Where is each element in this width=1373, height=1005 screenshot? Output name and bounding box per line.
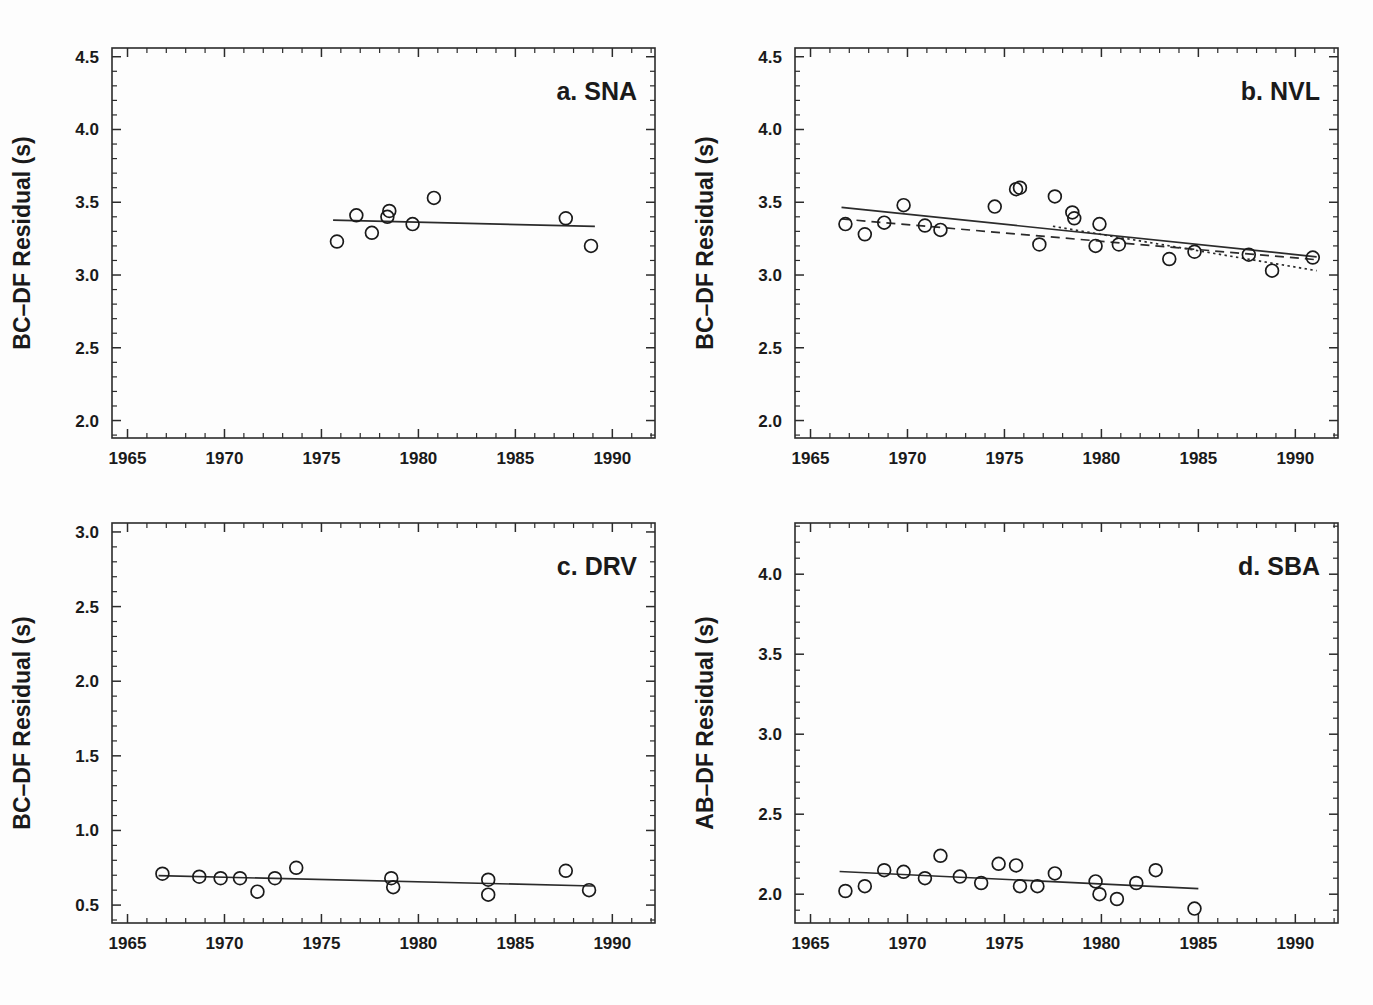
data-point-marker	[1111, 893, 1124, 906]
panel-label-sna: a. SNA	[556, 77, 637, 105]
y-tick-label: 4.5	[758, 48, 782, 67]
x-tick-label: 1975	[303, 934, 341, 953]
x-tick-label: 1970	[889, 449, 927, 468]
x-tick-label: 1980	[399, 449, 437, 468]
y-tick-label: 0.5	[75, 896, 99, 915]
data-point-marker	[1306, 251, 1319, 264]
axes-frame	[795, 48, 1338, 438]
x-axis-tick-labels: 196519701975198019851990	[109, 449, 632, 468]
regression-lines	[842, 207, 1317, 270]
data-point-marker	[385, 872, 398, 885]
data-point-marker	[559, 864, 572, 877]
y-tick-label: 2.0	[75, 412, 99, 431]
plot-drv: 1965197019751980198519900.51.01.52.02.53…	[0, 495, 690, 985]
y-axis-ticks	[795, 57, 1338, 435]
y-tick-label: 2.0	[75, 672, 99, 691]
y-tick-label: 4.0	[758, 565, 782, 584]
y-axis-ticks	[795, 526, 1338, 910]
x-tick-label: 1965	[792, 449, 830, 468]
data-point-marker	[934, 224, 947, 237]
data-point-marker	[290, 861, 303, 874]
y-axis-tick-labels: 2.02.53.03.54.04.5	[758, 48, 782, 431]
data-point-marker	[1112, 238, 1125, 251]
data-point-marker	[365, 226, 378, 239]
data-point-marker	[1048, 867, 1061, 880]
panel-drv: 1965197019751980198519900.51.01.52.02.53…	[0, 495, 690, 985]
x-tick-label: 1965	[109, 934, 147, 953]
x-axis-tick-labels: 196519701975198019851990	[792, 934, 1315, 953]
data-point-marker	[1149, 864, 1162, 877]
y-axis-title: AB–DF Residual (s)	[692, 616, 718, 829]
axes-frame	[112, 523, 655, 923]
y-tick-label: 3.0	[75, 266, 99, 285]
x-axis-ticks	[128, 48, 652, 438]
regression-line-solid	[333, 220, 595, 226]
y-tick-label: 3.5	[758, 193, 782, 212]
y-tick-label: 4.0	[75, 120, 99, 139]
data-points	[839, 849, 1201, 915]
y-tick-label: 2.5	[75, 598, 99, 617]
x-tick-label: 1980	[1082, 449, 1120, 468]
y-tick-label: 2.5	[758, 805, 782, 824]
data-point-marker	[406, 218, 419, 231]
data-point-marker	[934, 849, 947, 862]
data-point-marker	[1093, 218, 1106, 231]
data-point-marker	[992, 857, 1005, 870]
data-point-marker	[1033, 238, 1046, 251]
panel-label-sba: d. SBA	[1238, 552, 1320, 580]
x-axis-tick-labels: 196519701975198019851990	[109, 934, 632, 953]
data-point-marker	[1188, 902, 1201, 915]
x-axis-ticks	[128, 523, 652, 923]
axes-frame	[795, 523, 1338, 923]
y-tick-label: 1.0	[75, 821, 99, 840]
regression-lines	[333, 220, 595, 226]
data-points	[839, 181, 1319, 277]
plot-nvl: 1965197019751980198519902.02.53.03.54.04…	[683, 20, 1373, 500]
x-axis-ticks	[811, 523, 1335, 923]
y-tick-label: 2.0	[758, 412, 782, 431]
y-tick-label: 3.0	[758, 266, 782, 285]
x-tick-label: 1990	[593, 449, 631, 468]
panel-nvl: 1965197019751980198519902.02.53.03.54.04…	[683, 20, 1373, 500]
data-point-marker	[387, 881, 400, 894]
data-point-marker	[428, 191, 441, 204]
data-point-marker	[251, 885, 264, 898]
y-axis-tick-labels: 2.02.53.03.54.04.5	[75, 48, 99, 431]
y-tick-label: 3.5	[758, 645, 782, 664]
plot-sna: 1965197019751980198519902.02.53.03.54.04…	[0, 20, 690, 500]
data-point-marker	[858, 228, 871, 241]
data-point-marker	[559, 212, 572, 225]
x-tick-label: 1985	[496, 934, 534, 953]
data-point-marker	[585, 240, 598, 253]
panel-label-drv: c. DRV	[557, 552, 637, 580]
data-point-marker	[350, 209, 363, 222]
data-point-marker	[839, 885, 852, 898]
y-axis-tick-labels: 2.02.53.03.54.0	[758, 565, 782, 904]
data-point-marker	[919, 872, 932, 885]
y-axis-title: BC–DF Residual (s)	[9, 616, 35, 829]
y-tick-label: 1.5	[75, 747, 99, 766]
y-axis-ticks	[112, 57, 655, 435]
x-tick-label: 1970	[206, 934, 244, 953]
x-tick-label: 1975	[986, 449, 1024, 468]
y-axis-ticks	[112, 532, 655, 920]
y-tick-label: 3.5	[75, 193, 99, 212]
x-tick-label: 1990	[1276, 449, 1314, 468]
y-axis-title: BC–DF Residual (s)	[692, 136, 718, 349]
plot-sba: 1965197019751980198519902.02.53.03.54.0A…	[683, 495, 1373, 985]
x-tick-label: 1980	[399, 934, 437, 953]
data-point-marker	[1266, 264, 1279, 277]
data-point-marker	[156, 867, 169, 880]
data-point-marker	[1130, 877, 1143, 890]
data-point-marker	[1014, 880, 1027, 893]
y-tick-label: 2.0	[758, 885, 782, 904]
x-tick-label: 1990	[593, 934, 631, 953]
data-point-marker	[482, 888, 495, 901]
x-tick-label: 1965	[109, 449, 147, 468]
y-tick-label: 4.5	[75, 48, 99, 67]
x-tick-label: 1990	[1276, 934, 1314, 953]
data-point-marker	[1188, 245, 1201, 258]
x-axis-tick-labels: 196519701975198019851990	[792, 449, 1315, 468]
x-tick-label: 1975	[303, 449, 341, 468]
y-tick-label: 2.5	[75, 339, 99, 358]
